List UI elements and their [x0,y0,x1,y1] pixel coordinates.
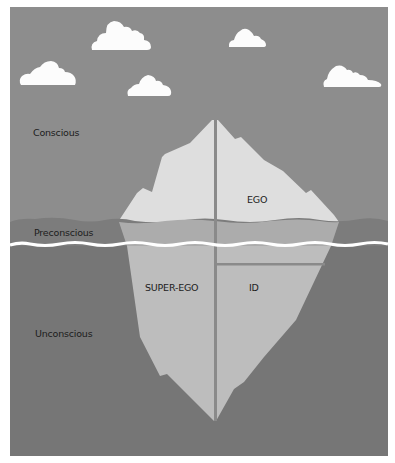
layer-label-unconscious: Unconscious [35,329,92,339]
region-label-ego: EGO [247,195,267,205]
layer-label-conscious: Conscious [33,128,79,138]
iceberg-diagram: Conscious Preconscious Unconscious EGO S… [0,0,395,463]
region-label-super-ego: SUPER-EGO [145,283,198,293]
divider-horizontal [217,263,325,266]
region-label-id: ID [249,283,259,293]
divider-vertical [214,120,217,421]
layer-label-preconscious: Preconscious [34,228,93,238]
